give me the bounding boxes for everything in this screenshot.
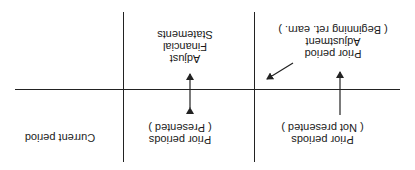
arrow-diagonal-to-axis-icon xyxy=(267,63,293,79)
timeline-diagram: Current period Prior periods ( Presented… xyxy=(0,0,415,170)
arrows xyxy=(0,0,415,170)
